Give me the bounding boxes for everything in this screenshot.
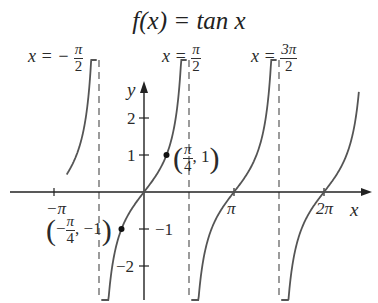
y-tick-label-2: 2 [127,110,136,127]
denominator: 4 [66,231,76,247]
asymptote-label-prefix: x = [162,46,187,66]
denominator: 2 [74,59,84,75]
numerator: π [191,42,201,59]
asymptote-label-neg-pi-over-2: x = − π2 [28,42,83,75]
tan-branch [67,60,97,175]
fraction: π4 [183,142,193,175]
fraction: π2 [74,42,84,75]
tan-curve-branches [67,60,359,300]
fraction: π2 [191,42,201,75]
asymptote-label-3pi-over-2: x = 3π2 [251,42,297,75]
close-paren: ) [102,213,112,246]
asymptote-label-prefix: x = − [28,46,69,66]
x-tick-label-2pi: 2π [316,200,333,217]
y-axis-arrow-icon [140,81,148,93]
data-point [164,152,170,158]
point-coords-tail: , −1 [75,219,102,238]
denominator: 2 [191,59,201,75]
open-paren: ( [173,141,183,174]
denominator: 2 [280,59,297,75]
tan-chart: f(x) = tan x x = − π2 x = π2 x = 3π2 y x… [0,0,378,303]
open-paren: ( [46,213,56,246]
close-paren: ) [210,141,220,174]
minus-sign: − [56,219,66,238]
y-tick-label-neg-2: −2 [116,258,134,275]
tan-branch [281,92,359,300]
tan-branch [191,60,276,300]
data-point [118,226,124,232]
fraction: 3π2 [280,42,297,75]
y-tick-label-neg-1: −1 [155,221,173,238]
x-axis-arrow-icon [361,188,372,196]
x-axis-label: x [350,200,358,219]
chart-title: f(x) = tan x [0,8,378,33]
denominator: 4 [183,159,193,175]
y-tick-label-1: 1 [127,147,136,164]
numerator: π [183,142,193,159]
axes [10,81,372,300]
asymptote-label-prefix: x = [251,46,276,66]
numerator: π [74,42,84,59]
point-label-pi-over-4: (π4, 1) [173,142,220,175]
asymptote-label-pi-over-2: x = π2 [162,42,201,75]
point-coords-tail: , 1 [193,147,210,166]
numerator: 3π [280,42,297,59]
point-label-neg-pi-over-4: (−π4, −1) [46,214,112,247]
y-axis-label: y [127,80,135,99]
fraction: π4 [66,214,76,247]
x-tick-label-pi: π [227,200,236,217]
numerator: π [66,214,76,231]
